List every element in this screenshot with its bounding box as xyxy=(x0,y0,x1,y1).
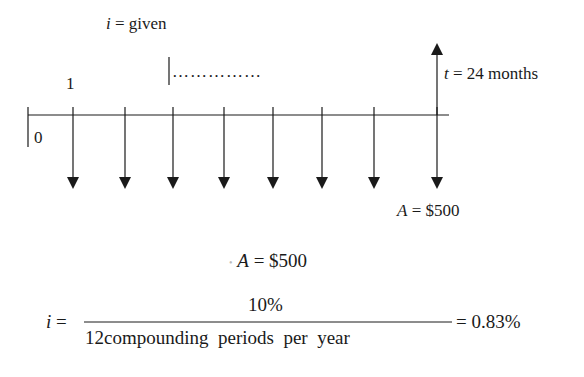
arrow-down-icon xyxy=(218,177,230,189)
arrow-down-icon xyxy=(267,177,279,189)
arrow-down-icon xyxy=(119,177,131,189)
payment-label: A = $500 xyxy=(397,201,459,221)
rate-lhs: i = xyxy=(46,311,67,333)
period-0-label: 0 xyxy=(34,128,43,148)
arrow-down-icon xyxy=(431,177,443,189)
interest-given-label: i = given xyxy=(106,14,167,34)
rate-denominator: 12compounding periods per year xyxy=(85,327,350,349)
arrow-down-icon xyxy=(368,177,380,189)
horizon-label: t = 24 months xyxy=(444,64,538,84)
arrow-down-icon xyxy=(167,177,179,189)
rate-numerator: 10% xyxy=(248,294,283,316)
arrow-down-icon xyxy=(67,177,79,189)
payment-formula: • A = $500 xyxy=(229,250,307,272)
period-1-label: 1 xyxy=(66,74,75,94)
rate-result: = 0.83% xyxy=(456,311,521,333)
payment-arrows xyxy=(67,107,443,189)
arrow-up-icon xyxy=(431,43,443,55)
ellipsis-dots: …………… xyxy=(172,62,262,82)
arrow-down-icon xyxy=(316,177,328,189)
